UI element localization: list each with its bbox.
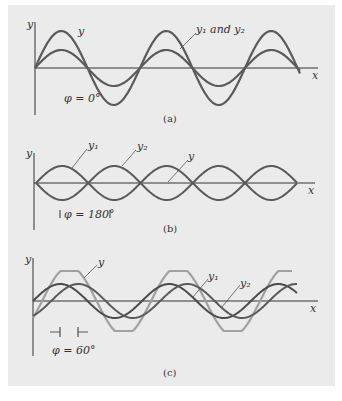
y1-label: y₁ — [207, 270, 219, 283]
resultant-label: y — [77, 25, 85, 38]
wave-superposition-figure: y x y y₁ and y₂ φ = 0° (a) y x y₁ y₂ y φ… — [0, 0, 342, 401]
resultant-label: y — [187, 150, 195, 163]
y-axis-label: y — [26, 18, 34, 31]
caption-c: (c) — [163, 367, 177, 378]
caption-a: (a) — [163, 113, 177, 124]
phase-label: φ = 60° — [52, 344, 95, 357]
y-axis-label: y — [25, 147, 33, 160]
x-axis-label: x — [310, 302, 317, 315]
y-axis-label: y — [24, 253, 32, 266]
y1-label: y₁ — [87, 139, 99, 152]
phase-label: φ = 0° — [64, 92, 100, 105]
figure-background — [8, 5, 335, 386]
y2-label: y₂ — [239, 277, 251, 290]
components-label: y₁ and y₂ — [195, 23, 245, 36]
x-axis-label: x — [312, 69, 319, 82]
caption-b: (b) — [163, 223, 177, 234]
y2-label: y₂ — [136, 140, 148, 153]
phase-label: φ = 180° — [64, 208, 114, 221]
resultant-label: y — [97, 256, 105, 269]
x-axis-label: x — [308, 184, 315, 197]
